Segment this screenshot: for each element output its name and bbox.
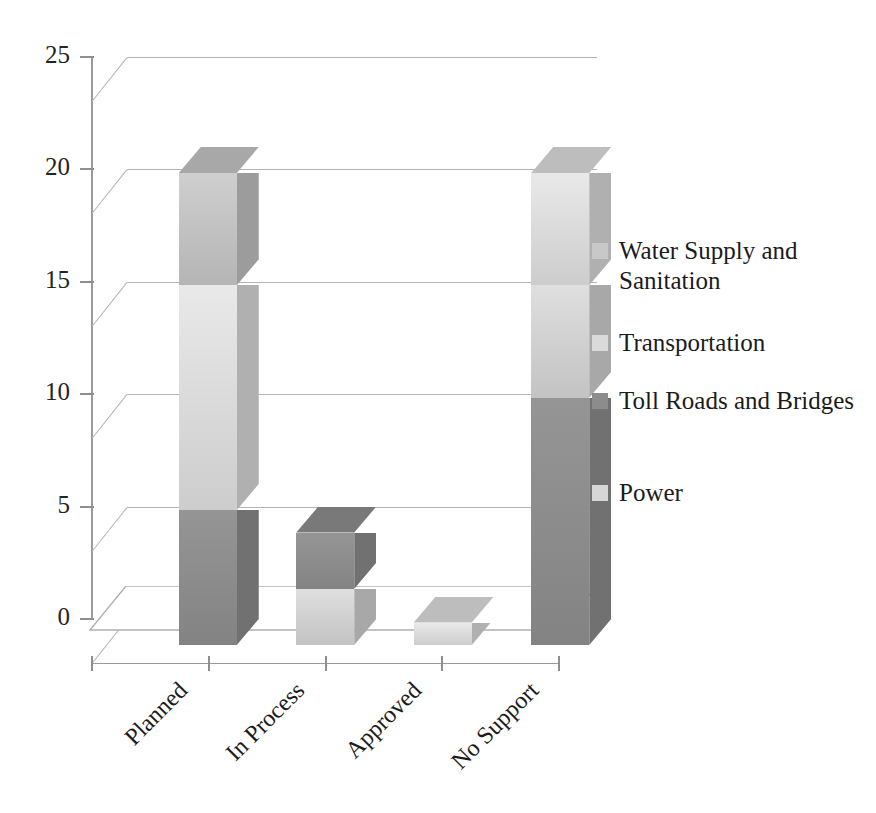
bar-segment-side [589,398,611,645]
bar-segment [531,398,589,645]
legend-item[interactable]: Transportation [592,328,859,358]
bar-segment [531,173,589,285]
legend-item[interactable]: Water Supply and Sanitation [592,236,859,296]
legend-swatch-icon [592,485,608,501]
legend-item-label: Toll Roads and Bridges [619,386,859,416]
bar-segment [531,285,589,397]
legend-item[interactable]: Toll Roads and Bridges [592,386,859,416]
legend-swatch-icon [592,243,608,259]
legend-item[interactable]: Power [592,478,859,508]
bar-top-cap [531,147,611,173]
legend-item-label: Transportation [619,328,859,358]
chart-root: 2520151050 PlannedIn ProcessApprovedNo S… [0,0,876,813]
legend-swatch-icon [592,335,608,351]
legend-swatch-icon [592,393,608,409]
legend-item-label: Water Supply and Sanitation [619,236,859,296]
legend-item-label: Power [619,478,859,508]
